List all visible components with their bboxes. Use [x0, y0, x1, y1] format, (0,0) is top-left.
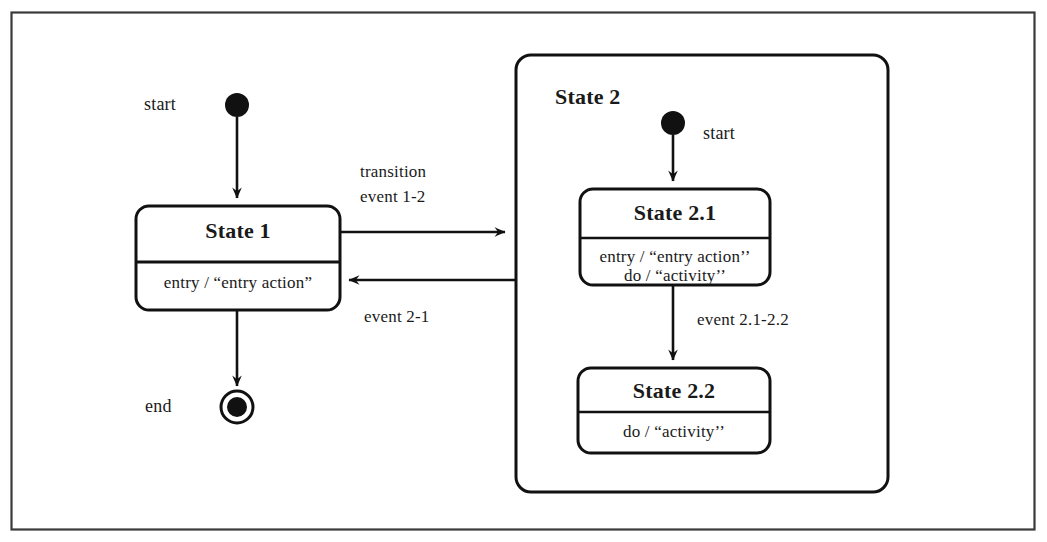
start-label-state2: start [703, 123, 735, 144]
state21-do-action: do / “activity’’ [624, 266, 726, 286]
state22-title: State 2.2 [633, 378, 715, 404]
start-label-state1: start [144, 94, 176, 115]
transition-label-1-2-line1: transition [360, 162, 426, 182]
state1-title: State 1 [205, 218, 271, 244]
transition-label-21-22: event 2.1-2.2 [697, 310, 789, 330]
diagram-vector-layer [0, 0, 1047, 542]
transition-label-2-1: event 2-1 [364, 307, 430, 327]
state1-entry-action: entry / “entry action” [164, 273, 312, 293]
state22-do-action: do / “activity’’ [623, 422, 725, 442]
state21-entry-action: entry / “entry action’’ [599, 247, 750, 267]
end-node-inner-dot [227, 397, 247, 417]
state21-title: State 2.1 [634, 200, 716, 226]
end-label: end [145, 396, 172, 417]
transition-label-1-2-line2: event 1-2 [360, 187, 426, 207]
start-node-state1 [225, 93, 249, 117]
uml-state-diagram: start end State 1 entry / “entry action”… [0, 0, 1047, 542]
start-node-state2 [661, 111, 685, 135]
state2-composite-title: State 2 [555, 84, 621, 110]
